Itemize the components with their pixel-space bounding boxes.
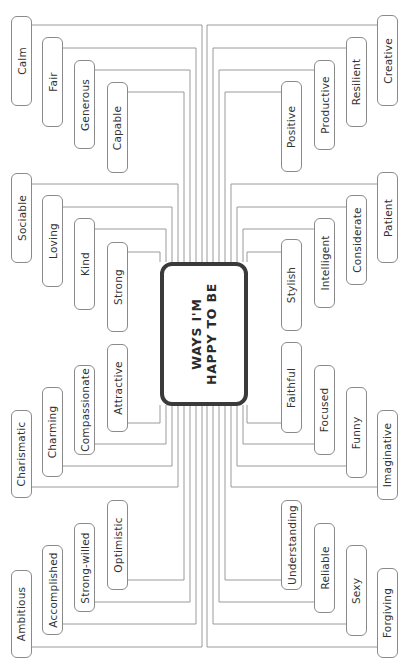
node-optimistic: Optimistic (107, 500, 128, 590)
node-strong-willed: Strong-willed (74, 523, 95, 612)
node-compassionate: Compassionate (74, 365, 95, 455)
node-positive: Positive (281, 81, 302, 172)
node-imaginative: Imaginative (377, 410, 398, 500)
node-strong: Strong (107, 242, 128, 332)
node-intelligent: Intelligent (314, 218, 335, 308)
node-charismatic: Charismatic (11, 410, 32, 498)
central-topic: WAYS I'M HAPPY TO BE (160, 262, 248, 406)
node-accomplished: Accomplished (42, 545, 63, 635)
node-calm: Calm (11, 16, 32, 106)
node-loving: Loving (42, 195, 63, 287)
node-reliable: Reliable (314, 523, 335, 613)
node-generous: Generous (74, 60, 95, 149)
node-creative: Creative (377, 15, 398, 106)
node-resilient: Resilient (346, 37, 367, 127)
node-kind: Kind (74, 218, 95, 310)
node-attractive: Attractive (107, 344, 128, 432)
node-sociable: Sociable (11, 173, 32, 263)
node-productive: Productive (314, 60, 335, 150)
node-charming: Charming (42, 387, 63, 477)
central-title: WAYS I'M HAPPY TO BE (189, 283, 219, 385)
node-ambitious: Ambitious (11, 570, 32, 658)
node-understanding: Understanding (281, 500, 302, 590)
mind-map: WAYS I'M HAPPY TO BE Calm Fair Generous … (0, 0, 408, 668)
node-patient: Patient (377, 172, 398, 263)
node-considerate: Considerate (346, 195, 367, 285)
node-forgiving: Forgiving (377, 568, 398, 658)
node-stylish: Stylish (281, 239, 302, 331)
node-sexy: Sexy (346, 545, 367, 636)
node-faithful: Faithful (281, 342, 302, 433)
node-capable: Capable (107, 82, 128, 173)
node-focused: Focused (314, 365, 335, 455)
node-funny: Funny (346, 387, 367, 478)
central-title-line1: WAYS I'M (189, 283, 204, 385)
central-title-line2: HAPPY TO BE (204, 283, 219, 385)
node-fair: Fair (42, 37, 63, 127)
